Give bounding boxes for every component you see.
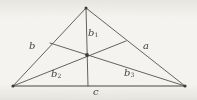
triangle-side-right	[86, 8, 185, 86]
label-cevian-lower-left-sub: 2	[57, 72, 61, 79]
label-side-bottom-base: c	[93, 86, 99, 97]
label-side-left: b	[29, 41, 35, 51]
label-side-left-base: b	[29, 40, 35, 51]
label-side-right: a	[143, 41, 149, 51]
label-cevian-lower-right-sub: 3	[130, 71, 134, 78]
label-cevian-top-sub: 1	[94, 31, 98, 38]
cevian-from-bottom-right	[50, 43, 185, 86]
triangle-side-left	[13, 8, 86, 86]
cevian-from-apex	[86, 8, 88, 86]
vertex-apex	[85, 7, 88, 10]
label-cevian-lower-right: b3	[124, 68, 134, 78]
label-cevian-lower-left: b2	[51, 69, 61, 79]
vertex-bottom-left	[11, 84, 14, 87]
label-side-right-base: a	[143, 40, 149, 51]
interior-intersection-point	[85, 53, 89, 57]
vertex-bottom-right	[183, 84, 186, 87]
label-cevian-top: b1	[88, 28, 98, 38]
label-side-bottom: c	[93, 87, 99, 97]
geometry-figure: b a c b1 b2 b3	[0, 0, 197, 100]
